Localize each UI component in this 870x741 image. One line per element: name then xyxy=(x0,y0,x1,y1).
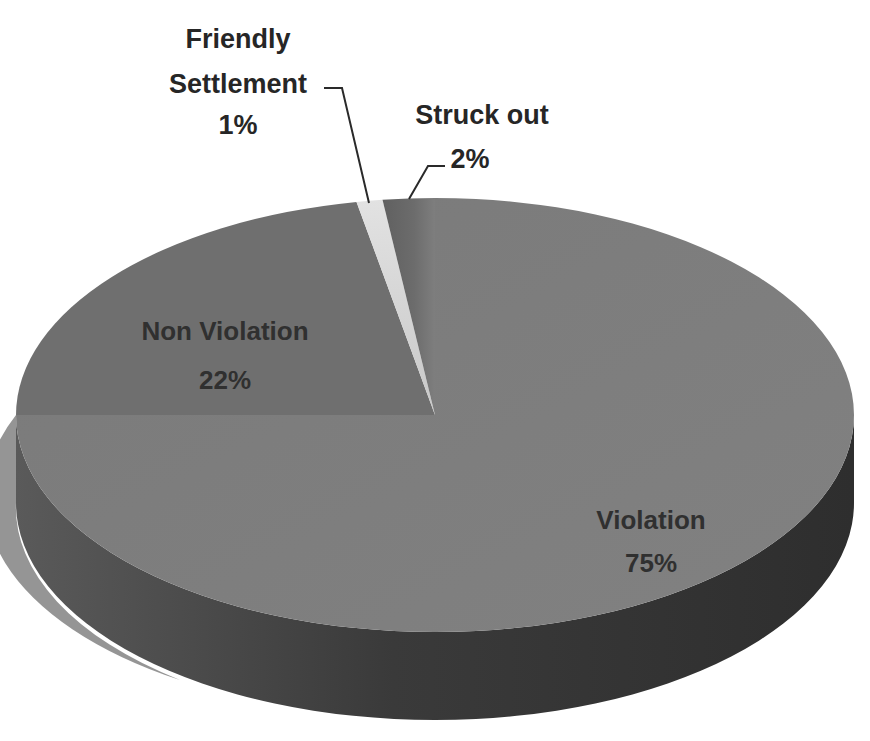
label-friendly-line2: Settlement xyxy=(169,69,307,99)
label-violation: Violation xyxy=(596,505,705,535)
leader-line-struck xyxy=(409,166,445,199)
label-struck-pct: 2% xyxy=(450,144,489,174)
label-friendly-line1: Friendly xyxy=(185,24,290,54)
label-friendly-pct: 1% xyxy=(218,110,257,140)
label-violation-pct: 75% xyxy=(625,548,677,578)
pie-chart: Friendly Settlement 1% Struck out 2% Non… xyxy=(0,0,870,741)
label-struck-line1: Struck out xyxy=(415,100,549,130)
leader-line-friendly xyxy=(324,88,369,203)
label-non-violation-pct: 22% xyxy=(199,365,251,395)
label-non-violation: Non Violation xyxy=(141,316,308,346)
